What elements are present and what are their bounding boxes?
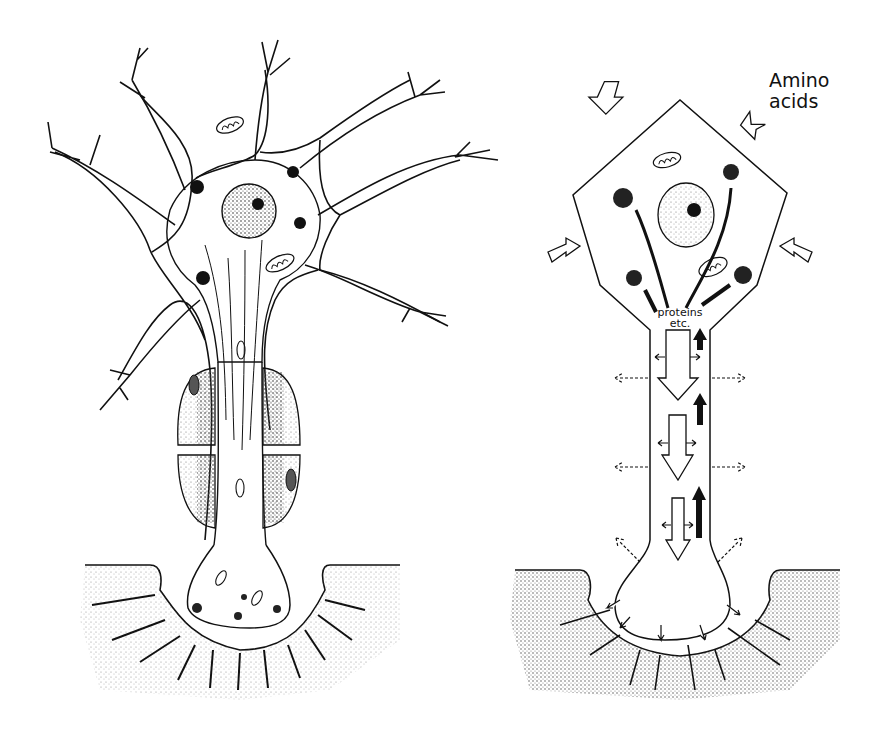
myelin-dark-right (264, 372, 284, 445)
nucleolus (687, 203, 701, 217)
dendrite-left (48, 122, 175, 225)
right-schematic (510, 74, 840, 700)
myelin-dark-left (197, 372, 215, 445)
proteins-label-line2: etc. (651, 318, 709, 329)
myelin-dark-right-lower (264, 455, 284, 523)
neuron-diagram-figure: Amino acids proteins etc. (0, 0, 882, 735)
dendrite-right (318, 142, 498, 215)
dendrite-top-right (300, 72, 445, 168)
axon-mitochondrion (236, 479, 244, 497)
nucleus (222, 184, 276, 238)
dendrite-top-left (120, 48, 185, 190)
amino-label-line2: acids (769, 91, 829, 112)
nucleolus (252, 198, 264, 210)
schwann-nucleus (286, 469, 296, 491)
mitochondrion (214, 114, 245, 137)
nucleus (658, 183, 714, 247)
left-neuron (48, 40, 498, 700)
schwann-nucleus (189, 375, 199, 395)
dendrite-lower-right (305, 265, 448, 326)
proteins-label: proteins etc. (651, 307, 709, 329)
mitochondrion (263, 250, 296, 275)
amino-label-line1: Amino (769, 70, 829, 91)
amino-acids-label: Amino acids (769, 70, 829, 112)
myelin-dark-left-lower (197, 455, 215, 523)
dendrite-top (255, 40, 290, 160)
